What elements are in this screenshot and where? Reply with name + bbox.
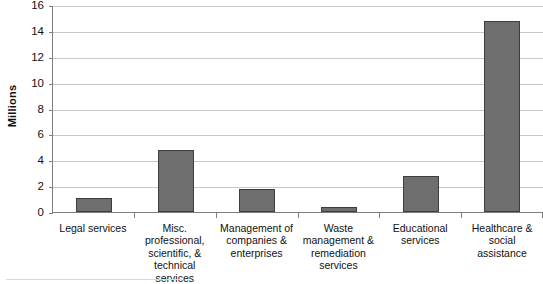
x-axis-tick-mark (379, 213, 380, 218)
y-axis-tick-label: 8 (38, 104, 44, 116)
bar-slot (135, 6, 217, 212)
bar-slot (53, 6, 135, 212)
plot-wrapper: 1614121086420 (24, 6, 543, 221)
plot-area (52, 6, 543, 213)
bar (484, 21, 520, 212)
y-axis-tick-label: 0 (38, 207, 44, 219)
scan-artifact-line (6, 279, 182, 280)
y-axis-tick-label: 14 (31, 26, 44, 38)
x-axis-category-label: Wastemanagement &remediationservices (297, 222, 379, 284)
bar (403, 176, 439, 212)
bar (239, 189, 275, 212)
bar-slot (380, 6, 462, 212)
bar-slot (298, 6, 380, 212)
y-axis-tick-labels: 1614121086420 (24, 6, 48, 213)
bar (76, 198, 112, 212)
x-axis-tick-mark (216, 213, 217, 218)
x-axis-tick-mark (298, 213, 299, 218)
y-axis-tick-label: 12 (31, 52, 44, 64)
bar (158, 150, 194, 212)
bar (321, 207, 357, 212)
y-axis-tick-label: 6 (38, 130, 44, 142)
y-axis-title-label: Millions (6, 85, 18, 128)
x-axis-tick-marks (52, 213, 543, 218)
bar-chart: Millions 1614121086420 Legal servicesMis… (0, 0, 543, 284)
x-axis-category-label: Legal services (52, 222, 134, 284)
bar-series (53, 6, 543, 212)
y-axis-tick-label: 2 (38, 181, 44, 193)
x-axis-category-labels: Legal servicesMisc.professional,scientif… (52, 222, 543, 284)
x-axis-category-label: Educationalservices (379, 222, 461, 284)
x-axis-category-label: Misc.professional,scientific, &technical… (134, 222, 216, 284)
y-axis-tick-label: 4 (38, 156, 44, 168)
y-axis-title: Millions (0, 0, 24, 212)
bar-slot (216, 6, 298, 212)
y-axis-tick-label: 10 (31, 78, 44, 90)
bar-slot (461, 6, 543, 212)
x-axis-category-label: Management ofcompanies &enterprises (216, 222, 298, 284)
x-axis-tick-mark (134, 213, 135, 218)
y-axis-tick-label: 16 (31, 0, 44, 12)
x-axis-tick-mark (461, 213, 462, 218)
x-axis-category-label: Healthcare &socialassistance (461, 222, 543, 284)
